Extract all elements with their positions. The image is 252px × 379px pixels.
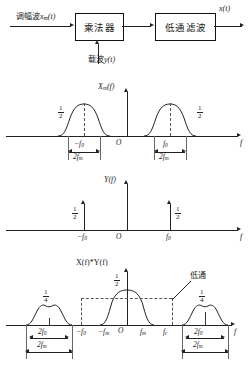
plot3-right-2f0-line — [186, 338, 224, 339]
plot3-left-dim-edge-a — [26, 325, 27, 359]
plot3-left-2f0-arrow-b — [65, 335, 69, 339]
plot3-tick-fm: fm — [140, 327, 146, 336]
plot3-right-dim-edge-a — [182, 325, 183, 359]
plot3-left-2fm-arrow-a — [25, 349, 29, 353]
plot3-right-2fm-arrow-a — [181, 349, 185, 353]
plot3-left-2f0-line — [30, 338, 68, 339]
plot3-tick-fc: fc — [163, 327, 168, 336]
plot3-right-2fm-label: 2fm — [193, 340, 203, 349]
lowpass-callout-label: 低通 — [190, 269, 206, 280]
plot3-left-amplitude: 14 — [43, 288, 49, 306]
plot3-left-2fm-label: 2fm — [37, 340, 47, 349]
plot3-left-2f0-arrow-a — [29, 335, 33, 339]
lowpass-callout-leader — [0, 0, 252, 379]
plot3-right-2fm-arrow-b — [225, 349, 229, 353]
plot3-right-dim-edge-b — [228, 325, 229, 359]
plot3-tick-minus-fm: −fm — [98, 327, 109, 336]
plot3-right-amplitude: 14 — [199, 288, 205, 306]
plot3-center-amplitude: 12 — [114, 272, 120, 290]
plot3-right-2fm-line — [182, 352, 228, 353]
plot3-right-2f0-label: 2f0 — [194, 327, 203, 336]
plot3-left-2fm-line — [26, 352, 72, 353]
plot3-left-2f0-label: 2f0 — [38, 327, 47, 336]
plot3-left-2fm-arrow-b — [69, 349, 73, 353]
plot3-left-dim-edge-b — [72, 325, 73, 359]
plot3-tick-minus-f0: −f0 — [76, 327, 86, 336]
plot3-right-2f0-arrow-a — [185, 335, 189, 339]
plot3-right-2f0-arrow-b — [221, 335, 225, 339]
